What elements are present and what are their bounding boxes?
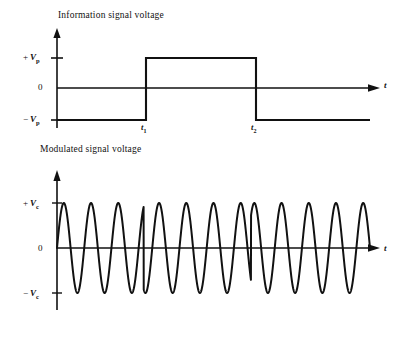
modulated-xaxis-label: t xyxy=(384,243,387,253)
waveform-svg xyxy=(0,0,404,360)
information-y-axis-arrowhead xyxy=(53,28,60,38)
modulated-y-axis-arrowhead xyxy=(53,170,60,181)
figure-canvas: Information signal voltage Modulated sig… xyxy=(0,0,404,360)
modulated-ytick-negative: − Vc xyxy=(23,288,39,300)
xtick-label-t1: t1 xyxy=(141,122,146,134)
information-plot-group xyxy=(51,28,380,128)
information-ytick-negative: − Vp xyxy=(23,114,40,126)
modulated-ytick-positive: + Vc xyxy=(23,198,39,210)
information-square-waveform xyxy=(57,58,370,120)
modulated-plot-title: Modulated signal voltage xyxy=(40,144,141,154)
information-ytick-zero: 0 xyxy=(38,82,43,92)
xtick-label-t2: t2 xyxy=(251,122,256,134)
modulated-plot-group xyxy=(52,170,380,310)
modulated-ytick-zero: 0 xyxy=(38,243,43,253)
information-ytick-positive: + Vp xyxy=(23,52,40,64)
information-x-axis-arrowhead xyxy=(368,84,380,92)
information-plot-title: Information signal voltage xyxy=(58,10,164,20)
information-xaxis-label: t xyxy=(384,80,387,90)
